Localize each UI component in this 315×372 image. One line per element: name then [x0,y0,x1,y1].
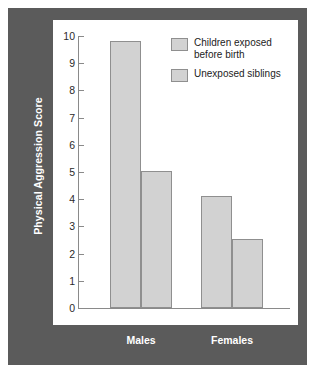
y-tick-label: 0 [53,308,75,309]
y-tick-label: 9 [53,63,75,64]
x-category-label: Females [192,334,272,346]
y-tick-label: 1 [53,281,75,282]
plot-canvas: 012345678910 Children exposed before bir… [53,20,298,325]
figure-border: Physical Aggression Score 012345678910 C… [8,8,307,365]
legend-swatch [171,69,188,82]
plot-area: 012345678910 Children exposed before bir… [53,20,298,325]
y-tick-label: 6 [53,145,75,146]
y-tick: 8 [78,90,84,91]
legend: Children exposed before birthUnexposed s… [171,37,295,89]
y-tick: 6 [78,145,84,146]
y-tick-label: 8 [53,90,75,91]
y-tick: 2 [78,254,84,255]
y-tick: 10 [78,36,84,37]
y-tick-label: 4 [53,199,75,200]
legend-swatch [171,38,188,51]
bar [141,171,172,308]
y-tick-label: 7 [53,118,75,119]
legend-label: Children exposed before birth [194,37,272,61]
y-tick: 3 [78,226,84,227]
legend-label: Unexposed siblings [194,68,281,80]
x-axis-line [78,308,290,309]
bar [201,196,232,308]
y-tick-label: 10 [53,36,75,37]
y-tick-label: 5 [53,172,75,173]
y-tick: 1 [78,281,84,282]
y-tick: 5 [78,172,84,173]
y-axis-title: Physical Aggression Score [32,76,44,256]
x-category-label: Males [101,334,181,346]
y-tick-label: 2 [53,254,75,255]
y-tick: 9 [78,63,84,64]
bar [232,239,263,308]
bar [110,41,141,308]
figure: Physical Aggression Score 012345678910 C… [0,0,315,372]
y-tick: 4 [78,199,84,200]
y-tick: 7 [78,118,84,119]
legend-item: Unexposed siblings [171,68,295,82]
legend-item: Children exposed before birth [171,37,295,61]
y-tick: 0 [78,308,84,309]
y-tick-label: 3 [53,226,75,227]
